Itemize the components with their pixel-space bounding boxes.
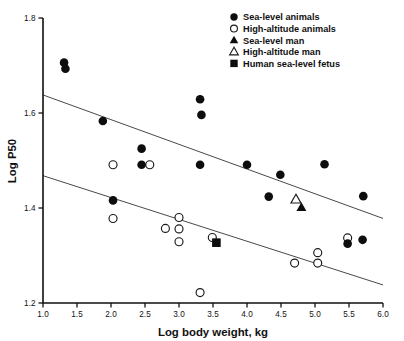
x-tick-label: 2.0 [105, 310, 117, 319]
legend-marker-open-triangle [230, 47, 239, 55]
legend-marker-open-circle [231, 25, 238, 32]
x-tick-label: 1.5 [71, 310, 83, 319]
y-axis-label: Log P50 [6, 139, 18, 183]
series-sea-level-animals [60, 58, 368, 248]
data-point [314, 249, 322, 257]
x-tick-label: 3.5 [207, 310, 219, 319]
legend-marker-filled-triangle [230, 36, 239, 44]
y-tick-label: 1.4 [24, 204, 36, 213]
legend-item: High-altitude man [230, 47, 321, 57]
data-point [291, 259, 299, 267]
legend-label: Sea-level man [243, 36, 305, 46]
high-altitude-regression [43, 176, 383, 285]
legend-item: Sea-level man [230, 36, 305, 46]
legend-item: High-altitude animals [231, 24, 336, 34]
y-tick-label: 1.6 [24, 109, 36, 118]
data-point [212, 238, 221, 247]
x-tick-label: 5.5 [343, 310, 355, 319]
legend-marker-filled-square [230, 60, 237, 67]
legend-marker-filled-circle [230, 13, 237, 20]
data-point [137, 144, 146, 153]
data-point [264, 192, 273, 201]
data-point [196, 160, 205, 169]
x-tick-label: 3.0 [173, 310, 185, 319]
data-point [314, 259, 322, 267]
data-point [161, 224, 169, 232]
series-high-altitude-animals [109, 161, 352, 297]
data-point [175, 214, 183, 222]
chart-figure: 1.01.52.02.53.03.54.04.55.05.56.01.21.41… [0, 0, 404, 341]
sea-level-regression [43, 95, 383, 219]
data-point [296, 202, 306, 211]
data-point [61, 65, 70, 74]
x-tick-label: 5.0 [309, 310, 321, 319]
scatter-plot: 1.01.52.02.53.03.54.04.55.05.56.01.21.41… [0, 0, 404, 341]
plot-fit-lines [43, 95, 383, 285]
data-point [243, 160, 252, 169]
data-point [197, 111, 206, 120]
data-point [146, 161, 154, 169]
x-tick-label: 1.0 [37, 310, 49, 319]
data-point [109, 214, 117, 222]
legend-item: Human sea-level fetus [230, 59, 340, 69]
data-point [109, 161, 117, 169]
data-point [196, 289, 204, 297]
legend-label: Sea-level animals [243, 12, 320, 22]
series-high-altitude-man [291, 194, 301, 203]
x-tick-label: 6.0 [377, 310, 389, 319]
x-tick-label: 4.5 [275, 310, 287, 319]
data-point [175, 238, 183, 246]
x-axis-label: Log body weight, kg [158, 326, 268, 338]
y-tick-label: 1.2 [24, 299, 36, 308]
data-point [99, 117, 108, 126]
data-point [358, 236, 367, 245]
data-point [109, 196, 118, 205]
legend-item: Sea-level animals [230, 12, 319, 22]
data-point [343, 239, 352, 248]
legend-label: Human sea-level fetus [243, 59, 340, 69]
data-point [196, 95, 205, 104]
legend: Sea-level animalsHigh-altitude animalsSe… [230, 12, 340, 68]
data-point [137, 160, 146, 169]
data-point [175, 225, 183, 233]
data-point [276, 170, 285, 179]
series-sea-level-man [296, 202, 306, 211]
data-point [291, 194, 301, 203]
plot-data-points [60, 58, 368, 296]
x-tick-label: 2.5 [139, 310, 151, 319]
legend-label: High-altitude man [243, 47, 321, 57]
x-tick-label: 4.0 [241, 310, 253, 319]
y-tick-label: 1.8 [24, 14, 36, 23]
series-human-sea-level-fetus [212, 238, 221, 247]
legend-label: High-altitude animals [243, 24, 336, 34]
data-point [320, 160, 329, 169]
data-point [359, 192, 368, 201]
